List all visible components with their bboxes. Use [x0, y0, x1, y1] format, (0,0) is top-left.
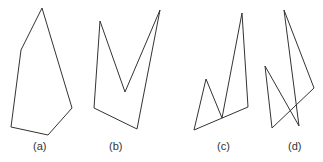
polygon-a [11, 8, 72, 135]
polygon-figure [0, 0, 323, 162]
label-c: (c) [217, 140, 230, 152]
polygon-b [94, 10, 160, 129]
label-d: (d) [288, 140, 301, 152]
polygon-d [265, 10, 314, 128]
label-a: (a) [33, 140, 46, 152]
label-b: (b) [109, 140, 122, 152]
polygon-c [194, 13, 248, 130]
